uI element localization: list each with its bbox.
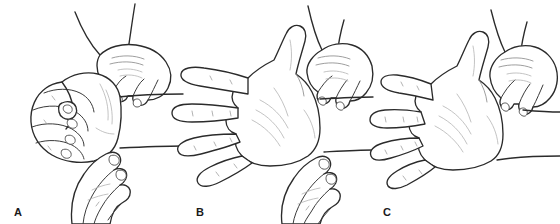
panel-a: A	[0, 0, 187, 224]
subject-forearm-line-c	[497, 156, 560, 160]
fist-index-nail	[67, 119, 77, 128]
panel-a-illustration	[0, 0, 187, 224]
examiner-lower-b-nail-1	[319, 159, 329, 169]
panel-c-illustration	[373, 0, 560, 224]
examiner-lower-hand	[72, 152, 131, 224]
fist-middle-nail	[65, 135, 75, 144]
subject-finger-little-c	[387, 160, 435, 189]
examiner-upper-b-nail-2	[336, 102, 344, 110]
panel-label-b: B	[196, 207, 204, 218]
panel-b-illustration	[186, 0, 373, 224]
examiner-upper-hand-c	[490, 46, 557, 115]
subject-fist-outline	[31, 73, 121, 162]
subject-finger-little-b	[197, 156, 252, 186]
subject-forearm-volar-line	[120, 146, 183, 148]
fist-ring-nail	[61, 149, 71, 158]
panel-b: B	[186, 0, 373, 224]
subject-finger-index-c	[381, 75, 433, 100]
examiner-upper-forearm-line-c	[491, 10, 505, 52]
subject-hand-palm-b	[226, 25, 320, 166]
examiner-lower-nail-2	[116, 170, 126, 180]
examiner-upper-nail-2	[133, 99, 141, 107]
fist-thumb-nail	[63, 105, 72, 113]
subject-finger-ring-b	[178, 134, 240, 156]
examiner-lower-nail-1	[109, 155, 119, 165]
figure-container: A	[0, 0, 560, 224]
subject-forearm-volar-line-b	[324, 150, 373, 152]
examiner-upper-arm-edge	[128, 4, 135, 50]
panel-label-c: C	[383, 207, 391, 218]
examiner-upper-forearm-line	[75, 12, 100, 55]
subject-finger-ring-c	[371, 138, 424, 160]
subject-finger-index-b	[181, 67, 248, 94]
examiner-upper-c-nail-1	[501, 103, 509, 111]
panel-c: C	[373, 0, 560, 224]
examiner-lower-b-nail-2	[326, 174, 336, 184]
subject-finger-middle-c	[370, 110, 425, 128]
subject-hand-palm-c	[409, 31, 503, 170]
examiner-upper-c-nail-2	[519, 108, 527, 116]
examiner-upper-forearm-line-b	[308, 6, 322, 50]
panel-label-a: A	[14, 207, 22, 218]
subject-finger-middle-b	[172, 104, 238, 122]
